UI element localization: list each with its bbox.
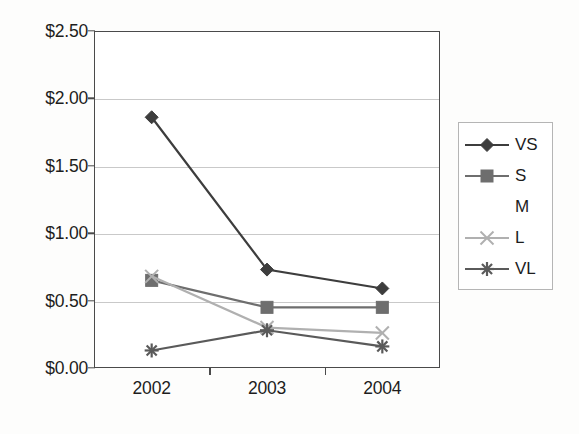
data-point-marker-diamond xyxy=(481,138,494,151)
x-axis-tick-mark xyxy=(325,368,326,375)
legend-marker-none-icon xyxy=(463,197,511,217)
x-axis-tick-label: 2003 xyxy=(248,378,286,399)
data-point-marker-diamond xyxy=(376,282,389,295)
legend-label: VL xyxy=(511,259,535,279)
data-point-marker-square xyxy=(261,301,273,313)
legend-marker-diamond-icon xyxy=(463,135,511,155)
data-point-marker-asterisk xyxy=(145,343,159,357)
legend-label: L xyxy=(511,228,524,248)
legend-label: M xyxy=(511,197,529,217)
chart-container: $0.00$0.50$1.00$1.50$2.00$2.50 200220032… xyxy=(0,0,579,434)
y-axis-ticks xyxy=(0,31,96,368)
data-point-marker-asterisk xyxy=(480,262,494,276)
legend-item-m[interactable]: M xyxy=(459,191,552,222)
x-axis-labels: 200220032004 xyxy=(94,378,440,408)
legend-marker-asterisk-icon xyxy=(463,259,511,279)
legend-item-vl[interactable]: VL xyxy=(459,253,552,284)
series-vs xyxy=(145,111,389,295)
legend-label: VS xyxy=(511,135,537,155)
legend-marker-x-icon xyxy=(463,228,511,248)
series-s xyxy=(146,274,389,313)
legend-marker-square-icon xyxy=(463,166,511,186)
data-point-marker-square xyxy=(481,170,493,182)
series-vl xyxy=(145,323,390,357)
data-point-marker-asterisk xyxy=(260,323,274,337)
data-point-marker-asterisk xyxy=(375,339,389,353)
chart-legend: VSSMLVL xyxy=(458,122,553,290)
chart-data-layer xyxy=(94,31,440,368)
data-point-marker-square xyxy=(376,301,388,313)
legend-item-vs[interactable]: VS xyxy=(459,129,552,160)
legend-item-s[interactable]: S xyxy=(459,160,552,191)
x-axis-tick-mark xyxy=(209,368,210,375)
x-axis-tick-label: 2002 xyxy=(133,378,171,399)
x-axis-tick-label: 2004 xyxy=(363,378,401,399)
legend-item-l[interactable]: L xyxy=(459,222,552,253)
legend-label: S xyxy=(511,166,526,186)
